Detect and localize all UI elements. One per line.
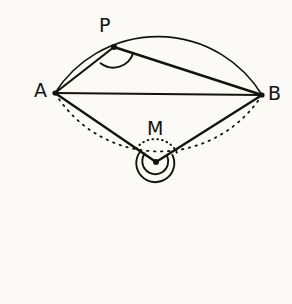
geometry-figure: A B P M <box>0 0 292 304</box>
chord-AB <box>55 93 262 95</box>
figure-canvas <box>0 0 292 304</box>
vertex-dot-A <box>52 90 57 95</box>
point-label-M: M <box>147 119 163 138</box>
vertex-dot-B <box>259 92 264 97</box>
radius-MB <box>156 95 262 162</box>
inscribed-angle-arc <box>101 53 134 67</box>
vertex-dot-M <box>153 159 159 165</box>
point-label-B: B <box>268 84 281 103</box>
segment-PA <box>55 47 114 93</box>
central-angle-arc-mid <box>136 152 174 183</box>
circle-upper-arc <box>55 37 262 95</box>
point-label-A: A <box>34 81 47 100</box>
vertex-dot-P <box>111 44 117 50</box>
point-label-P: P <box>99 16 110 35</box>
segment-PB <box>114 47 262 95</box>
central-angle-arc-outer <box>136 139 177 153</box>
